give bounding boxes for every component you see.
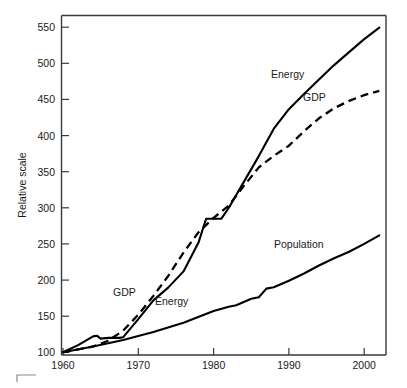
y-tick-label: 200: [37, 274, 55, 286]
y-tick-label: 300: [37, 202, 55, 214]
y-tick-label: 350: [37, 166, 55, 178]
x-tick-label: 1990: [277, 359, 301, 371]
x-tick-label: 1970: [127, 359, 151, 371]
x-tick-label: 2000: [353, 359, 377, 371]
annotation-gdp-upper: GDP: [303, 91, 326, 103]
x-tick-label: 1960: [51, 359, 75, 371]
y-tick-label: 550: [37, 21, 55, 33]
y-tick-label: 450: [37, 93, 55, 105]
y-tick-label: 400: [37, 130, 55, 142]
y-tick-label: 500: [37, 57, 55, 69]
y-tick-label: 150: [37, 310, 55, 322]
chart-figure: 550 500 450 400 350 300 250 200 150 100 …: [0, 0, 407, 388]
annotation-energy-upper: Energy: [271, 68, 305, 80]
x-tick-label: 1980: [202, 359, 226, 371]
y-tick-label: 250: [37, 238, 55, 250]
y-tick-label: 100: [37, 346, 55, 358]
annotation-gdp-lower: GDP: [113, 286, 136, 298]
y-axis-title: Relative scale: [16, 152, 28, 218]
annotation-energy-lower: Energy: [155, 295, 189, 307]
annotation-population: Population: [274, 238, 324, 250]
